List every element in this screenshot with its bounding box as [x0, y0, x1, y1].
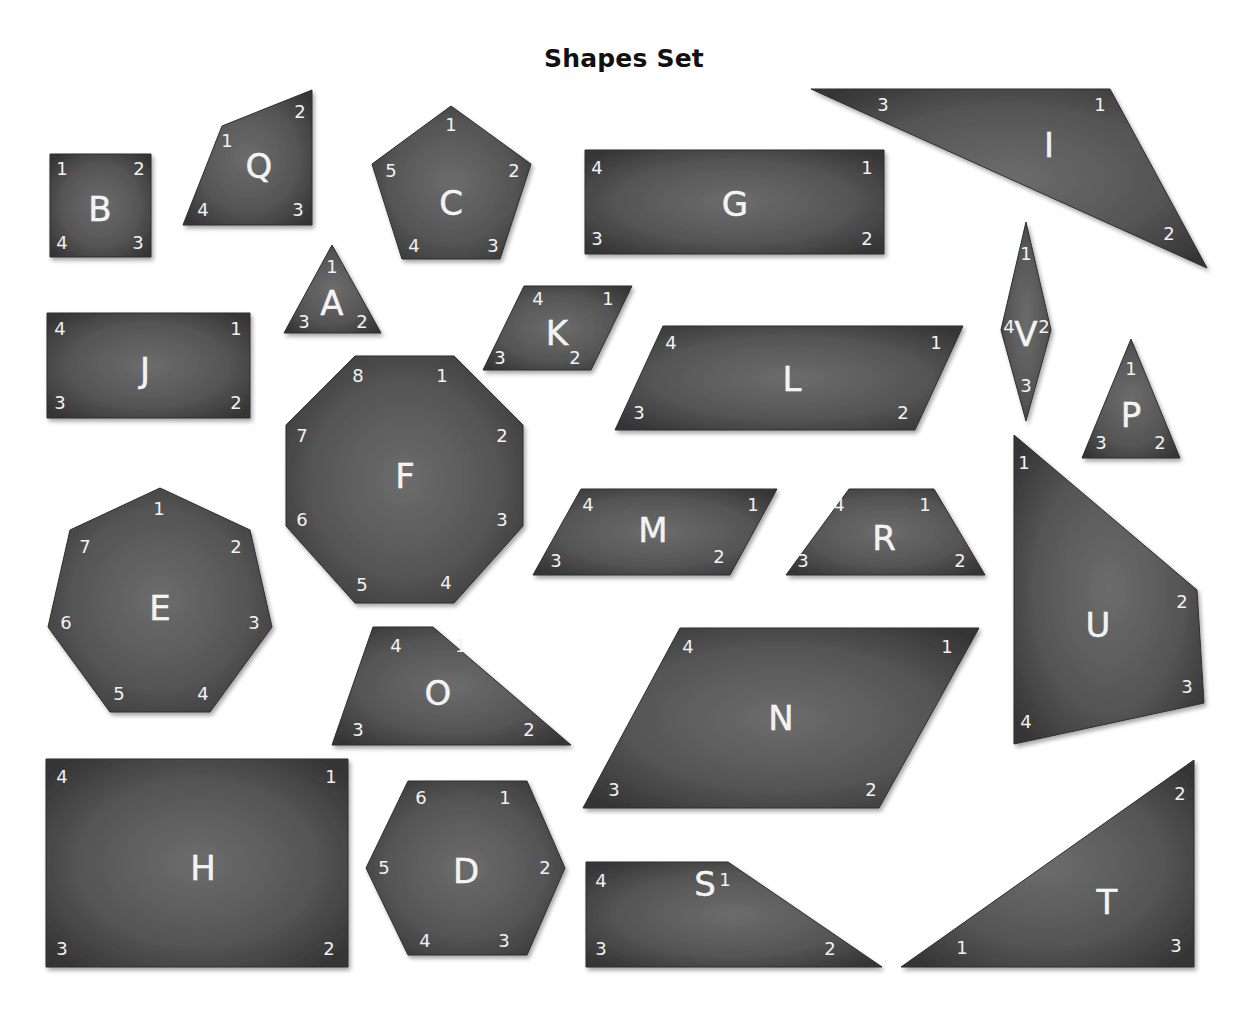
vertex-label: 3 — [496, 509, 507, 530]
shape-letter: L — [783, 359, 802, 399]
vertex-label: 4 — [595, 870, 606, 891]
vertex-label: 1 — [719, 869, 730, 890]
shape-s: S1234 — [586, 862, 882, 967]
vertex-label: 2 — [713, 546, 724, 567]
vertex-label: 6 — [296, 509, 307, 530]
shape-letter: F — [395, 456, 415, 496]
vertex-label: 2 — [356, 311, 367, 332]
vertex-label: 4 — [440, 572, 451, 593]
shape-b: B1234 — [50, 154, 151, 257]
vertex-label: 1 — [1094, 94, 1105, 115]
vertex-label: 1 — [1020, 243, 1031, 264]
vertex-label: 4 — [833, 494, 844, 515]
vertex-label: 1 — [930, 332, 941, 353]
vertex-label: 1 — [230, 318, 241, 339]
vertex-label: 4 — [390, 635, 401, 656]
shape-letter: V — [1014, 314, 1037, 354]
vertex-label: 1 — [326, 256, 337, 277]
vertex-label: 3 — [54, 392, 65, 413]
vertex-label: 2 — [508, 160, 519, 181]
vertex-label: 1 — [602, 288, 613, 309]
vertex-label: 2 — [1163, 223, 1174, 244]
vertex-label: 2 — [954, 550, 965, 571]
vertex-label: 2 — [294, 101, 305, 122]
vertex-label: 4 — [1003, 316, 1014, 337]
vertex-label: 1 — [436, 365, 447, 386]
shape-c: C12345 — [372, 106, 531, 259]
vertex-label: 3 — [56, 938, 67, 959]
shape-letter: H — [190, 848, 216, 888]
vertex-label: 2 — [133, 158, 144, 179]
shape-letter: R — [872, 518, 896, 558]
vertex-label: 1 — [1018, 452, 1029, 473]
shape-letter: N — [768, 698, 793, 738]
vertex-label: 3 — [797, 550, 808, 571]
vertex-label: 1 — [221, 130, 232, 151]
shape-letter: G — [722, 184, 748, 224]
vertex-label: 3 — [877, 94, 888, 115]
vertex-label: 2 — [1038, 316, 1049, 337]
vertex-label: 2 — [897, 402, 908, 423]
vertex-label: 1 — [1125, 358, 1136, 379]
vertex-label: 2 — [1154, 432, 1165, 453]
vertex-label: 4 — [532, 288, 543, 309]
vertex-label: 2 — [539, 857, 550, 878]
vertex-label: 1 — [747, 494, 758, 515]
shape-t: T123 — [901, 760, 1194, 967]
vertex-label: 1 — [919, 494, 930, 515]
shape-letter: A — [320, 283, 343, 323]
vertex-label: 1 — [325, 766, 336, 787]
vertex-label: 3 — [494, 347, 505, 368]
vertex-label: 1 — [455, 635, 466, 656]
vertex-label: 5 — [356, 574, 367, 595]
shape-letter: C — [439, 183, 463, 223]
vertex-label: 7 — [79, 536, 90, 557]
vertex-label: 2 — [865, 779, 876, 800]
shape-letter: S — [694, 864, 716, 904]
vertex-label: 4 — [665, 332, 676, 353]
shape-letter: B — [88, 189, 111, 229]
shapes-layer: B1234Q1234C12345G1234I123A123K1234J1234L… — [46, 89, 1207, 967]
vertex-label: 3 — [608, 779, 619, 800]
shape-polygon — [1014, 435, 1204, 744]
vertex-label: 1 — [445, 114, 456, 135]
vertex-label: 3 — [487, 235, 498, 256]
vertex-label: 4 — [56, 766, 67, 787]
shape-g: G1234 — [585, 150, 884, 254]
vertex-label: 4 — [582, 494, 593, 515]
vertex-label: 3 — [1181, 676, 1192, 697]
vertex-label: 3 — [1170, 935, 1181, 956]
shape-letter: K — [546, 313, 570, 353]
vertex-label: 5 — [385, 160, 396, 181]
vertex-label: 1 — [499, 787, 510, 808]
shape-letter: I — [1044, 125, 1054, 165]
vertex-label: 5 — [113, 683, 124, 704]
shape-m: M1234 — [533, 489, 777, 575]
vertex-label: 2 — [1174, 783, 1185, 804]
vertex-label: 1 — [956, 937, 967, 958]
vertex-label: 2 — [824, 938, 835, 959]
vertex-label: 2 — [523, 719, 534, 740]
vertex-label: 2 — [230, 392, 241, 413]
shape-n: N1234 — [583, 628, 979, 808]
vertex-label: 2 — [230, 536, 241, 557]
vertex-label: 1 — [941, 636, 952, 657]
shape-polygon — [901, 760, 1194, 967]
shape-letter: U — [1086, 605, 1111, 645]
shape-letter: P — [1121, 395, 1142, 435]
vertex-label: 4 — [419, 930, 430, 951]
shape-letter: T — [1096, 882, 1118, 922]
shape-u: U1234 — [1014, 435, 1204, 744]
vertex-label: 2 — [1176, 591, 1187, 612]
shape-o: O1234 — [332, 627, 571, 745]
vertex-label: 4 — [56, 232, 67, 253]
vertex-label: 4 — [591, 157, 602, 178]
vertex-label: 5 — [378, 857, 389, 878]
shape-polygon — [332, 627, 571, 745]
vertex-label: 3 — [352, 719, 363, 740]
shape-f: F12345678 — [286, 356, 523, 603]
shape-h: H1234 — [46, 759, 348, 967]
shape-l: L1234 — [615, 326, 963, 430]
shape-r: R1234 — [786, 489, 985, 575]
shape-e: E1234567 — [48, 488, 272, 712]
